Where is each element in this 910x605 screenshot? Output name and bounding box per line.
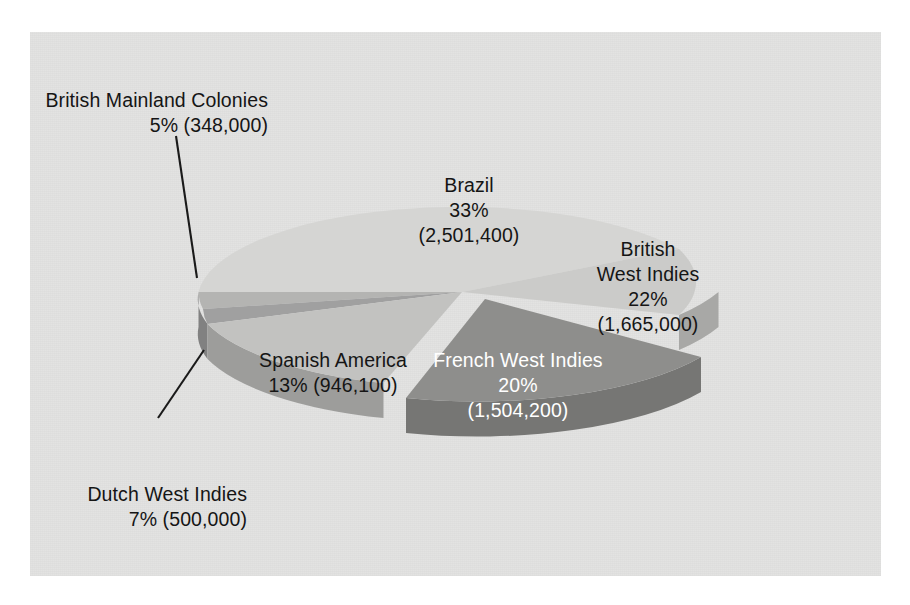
label-british-mainland-colonies-line1: British Mainland Colonies [44, 88, 268, 113]
leader-lines [158, 136, 204, 418]
label-french-west-indies: French West Indies 20% (1,504,200) [418, 348, 618, 423]
label-brazil-line1: Brazil [378, 173, 560, 198]
label-french-west-indies-line1: French West Indies [418, 348, 618, 373]
label-british-west-indies: British West Indies 22% (1,665,000) [556, 237, 740, 337]
label-british-west-indies-line3: 22% [556, 287, 740, 312]
label-british-mainland-colonies-line2: 5% (348,000) [44, 113, 268, 138]
pie-chart-figure: British Mainland Colonies 5% (348,000) B… [0, 0, 910, 605]
label-brazil-line2: 33% [378, 198, 560, 223]
leader-line-british-mainland-colonies [176, 136, 197, 278]
label-brazil: Brazil 33% (2,501,400) [378, 173, 560, 248]
label-french-west-indies-line2: 20% [418, 373, 618, 398]
label-french-west-indies-line3: (1,504,200) [418, 398, 618, 423]
label-british-west-indies-line2: West Indies [556, 262, 740, 287]
label-british-mainland-colonies: British Mainland Colonies 5% (348,000) [44, 88, 268, 138]
label-brazil-line3: (2,501,400) [378, 223, 560, 248]
leader-line-dutch-west-indies [158, 350, 204, 418]
label-spanish-america-line2: 13% (946,100) [238, 373, 428, 398]
label-dutch-west-indies-line2: 7% (500,000) [44, 507, 247, 532]
label-spanish-america: Spanish America 13% (946,100) [238, 348, 428, 398]
label-spanish-america-line1: Spanish America [238, 348, 428, 373]
label-british-west-indies-line1: British [556, 237, 740, 262]
label-dutch-west-indies: Dutch West Indies 7% (500,000) [44, 482, 247, 532]
label-british-west-indies-line4: (1,665,000) [556, 312, 740, 337]
label-dutch-west-indies-line1: Dutch West Indies [44, 482, 247, 507]
